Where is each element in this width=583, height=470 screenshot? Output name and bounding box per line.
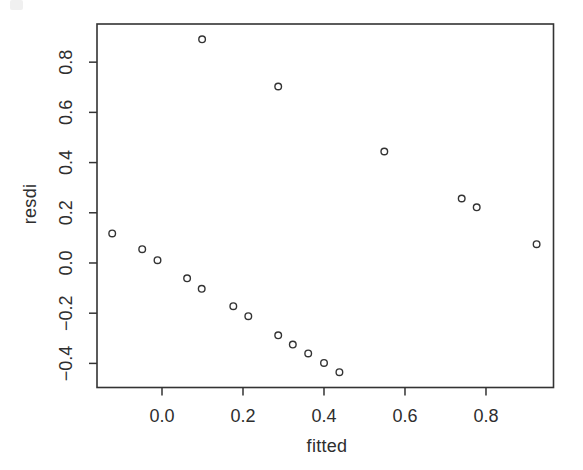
plot-box: [97, 24, 554, 388]
y-tick-label: −0.4: [56, 346, 76, 382]
y-tick-label: 0.8: [56, 50, 76, 75]
data-point: [321, 360, 328, 367]
x-tick-label: 0.8: [473, 406, 498, 426]
data-point: [290, 341, 297, 348]
scatter-plot-figure: 0.00.20.40.60.8−0.4−0.20.00.20.40.60.8 f…: [0, 0, 583, 470]
data-point: [275, 332, 282, 339]
x-tick-label: 0.4: [311, 406, 336, 426]
y-tick-label: 0.6: [56, 100, 76, 125]
data-point: [199, 36, 206, 43]
data-point: [139, 246, 146, 253]
data-point: [336, 369, 343, 376]
data-point: [305, 350, 312, 357]
data-point: [381, 148, 388, 155]
data-point: [245, 313, 252, 320]
y-tick-label: −0.2: [56, 295, 76, 331]
data-point: [533, 241, 540, 248]
x-tick-label: 0.0: [149, 406, 174, 426]
x-axis-title: fitted: [307, 436, 348, 456]
y-tick-label: 0.0: [56, 250, 76, 275]
data-point: [154, 257, 161, 264]
y-tick-label: 0.2: [56, 200, 76, 225]
y-axis-title: resdi: [20, 184, 40, 225]
data-point: [198, 286, 205, 293]
data-point: [473, 204, 480, 211]
data-point: [458, 195, 465, 202]
x-tick-label: 0.2: [230, 406, 255, 426]
data-point: [184, 275, 191, 282]
plot-area: 0.00.20.40.60.8−0.4−0.20.00.20.40.60.8: [56, 24, 554, 426]
data-point: [230, 303, 237, 310]
plot-canvas: 0.00.20.40.60.8−0.4−0.20.00.20.40.60.8 f…: [0, 0, 583, 470]
data-point: [109, 230, 116, 237]
y-tick-label: 0.4: [56, 150, 76, 175]
data-point: [275, 83, 282, 90]
x-tick-label: 0.6: [392, 406, 417, 426]
